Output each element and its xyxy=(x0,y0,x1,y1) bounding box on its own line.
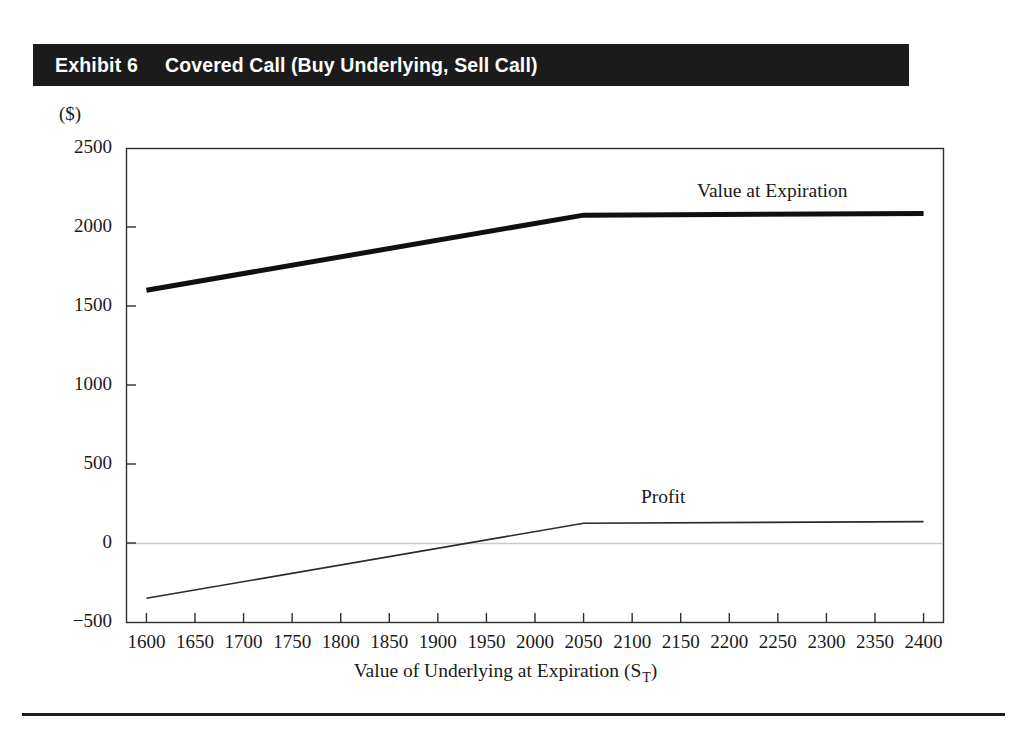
series-label-profit: Profit xyxy=(641,486,685,508)
series-label-value-at-expiration: Value at Expiration xyxy=(697,180,848,202)
x-axis-title-subscript: T xyxy=(641,670,651,685)
chart-svg xyxy=(0,0,1011,700)
chart-plot-area: −500050010001500200025001600165017001750… xyxy=(0,0,1011,700)
plot-frame xyxy=(127,149,944,623)
y-axis-tick-label: 1500 xyxy=(40,294,112,316)
x-axis-tick-label: 2400 xyxy=(894,631,954,653)
y-axis-tick-label: 2000 xyxy=(40,215,112,237)
x-axis-title-close: ) xyxy=(651,660,658,681)
bottom-rule xyxy=(22,713,1005,716)
y-axis-tick-label: 2500 xyxy=(40,136,112,158)
x-axis-title-main: Value of Underlying at Expiration (S xyxy=(354,660,642,681)
x-axis-title: Value of Underlying at Expiration (ST) xyxy=(0,660,1011,686)
y-axis-tick-label: 0 xyxy=(40,531,112,553)
y-axis-tick-label: −500 xyxy=(40,610,112,632)
y-axis-tick-label: 500 xyxy=(40,452,112,474)
y-axis-tick-label: 1000 xyxy=(40,373,112,395)
exhibit-figure: Exhibit 6 Covered Call (Buy Underlying, … xyxy=(0,0,1011,738)
